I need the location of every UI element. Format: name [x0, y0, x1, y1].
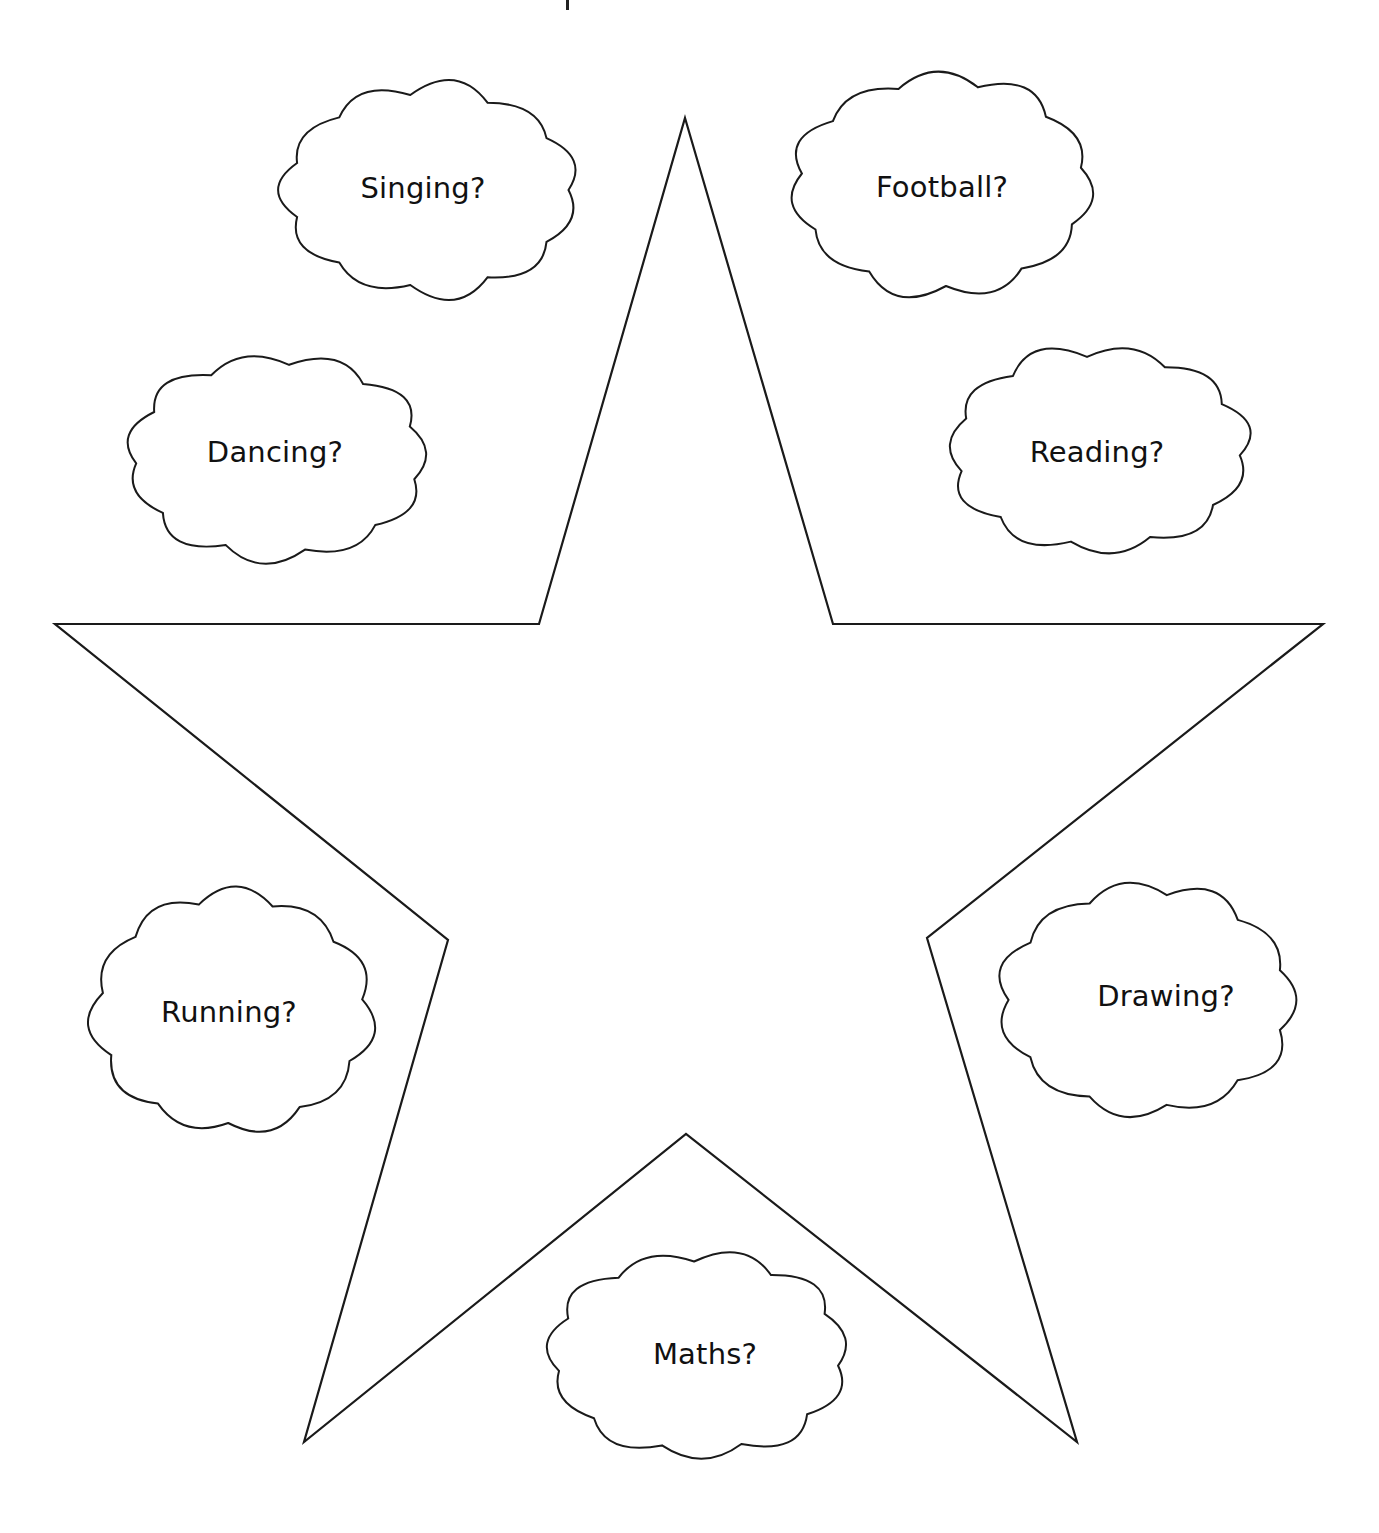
cloud-label-drawing: Drawing? — [1097, 979, 1235, 1013]
star-shape — [55, 118, 1323, 1442]
cloud-label-singing: Singing? — [360, 171, 485, 205]
cloud-label-football: Football? — [876, 170, 1008, 204]
cloud-label-dancing: Dancing? — [207, 435, 343, 469]
star-diagram — [0, 0, 1379, 1533]
worksheet-canvas: Singing? Football? Dancing? Reading? Run… — [0, 0, 1379, 1533]
cloud-label-maths: Maths? — [653, 1337, 757, 1371]
title-text-fragment — [566, 0, 569, 10]
cloud-label-reading: Reading? — [1030, 435, 1165, 469]
cloud-label-running: Running? — [161, 995, 297, 1029]
